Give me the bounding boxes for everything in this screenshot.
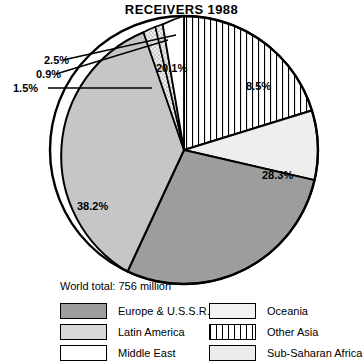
legend-swatch-oceania-icon [209,303,256,319]
legend-row: Latin America Other Asia [60,321,363,342]
legend-label-europe: Europe & U.S.S.R. [118,305,210,317]
legend: Europe & U.S.S.R. Oceania Latin America … [60,300,363,363]
legend-item-oceania: Oceania [209,303,308,319]
legend-swatch-europe-icon [60,303,107,319]
legend-item-latin-america: Latin America [60,324,209,340]
legend-swatch-middle-east-icon [60,345,107,361]
legend-row: Europe & U.S.S.R. Oceania [60,300,363,321]
slice-label-oceania: 8.5% [246,80,271,92]
legend-swatch-subsaharan-icon [209,345,256,361]
slice-label-middle-east: 2.5% [44,54,69,66]
slice-label-subsaharan: 1.5% [13,82,38,94]
slice-label-europe: 28.3% [262,169,293,181]
legend-row: Middle East Sub-Saharan Africa [60,342,363,363]
legend-label-oceania: Oceania [267,305,308,317]
slice-label-small-b: 0.9% [36,68,61,80]
world-total-text: World total: 756 million [60,280,171,292]
legend-label-middle-east: Middle East [118,347,175,359]
legend-label-other-asia: Other Asia [267,326,318,338]
pie-chart [0,0,363,290]
legend-swatch-latin-america-icon [60,324,107,340]
slice-label-latin-america: 38.2% [77,200,108,212]
legend-item-middle-east: Middle East [60,345,209,361]
legend-item-subsaharan: Sub-Saharan Africa [209,345,362,361]
legend-item-other-asia: Other Asia [209,324,318,340]
slice-label-other-asia: 20.1% [156,62,187,74]
legend-item-europe: Europe & U.S.S.R. [60,303,209,319]
legend-label-latin-america: Latin America [118,326,185,338]
legend-label-subsaharan: Sub-Saharan Africa [267,347,362,359]
legend-swatch-other-asia-icon [209,324,256,340]
